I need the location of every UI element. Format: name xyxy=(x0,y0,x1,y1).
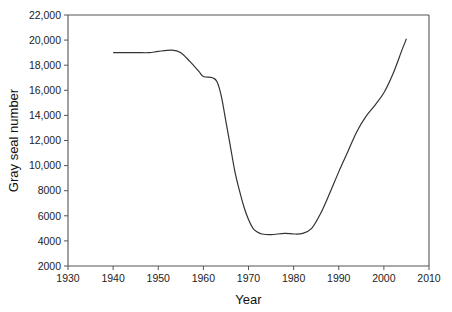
x-tick-label: 2000 xyxy=(372,272,396,284)
line-chart: 200040006000800010,00012,00014,00016,000… xyxy=(0,0,452,312)
y-tick-label: 8000 xyxy=(38,184,62,196)
y-tick-label: 20,000 xyxy=(29,34,61,46)
y-tick-label: 4000 xyxy=(38,235,62,247)
y-tick-label: 2000 xyxy=(38,260,62,272)
y-tick-label: 22,000 xyxy=(29,9,61,21)
x-tick-label: 2010 xyxy=(417,272,441,284)
y-tick-label: 6000 xyxy=(38,210,62,222)
x-axis-title: Year xyxy=(235,292,262,307)
x-tick-label: 1930 xyxy=(56,272,80,284)
x-tick-label: 1950 xyxy=(147,272,171,284)
x-tick-label: 1990 xyxy=(327,272,351,284)
y-tick-label: 14,000 xyxy=(29,109,61,121)
x-tick-label: 1970 xyxy=(237,272,261,284)
y-tick-label: 16,000 xyxy=(29,84,61,96)
y-tick-label: 12,000 xyxy=(29,134,61,146)
y-tick-label: 18,000 xyxy=(29,59,61,71)
x-tick-label: 1980 xyxy=(282,272,306,284)
x-tick-label: 1960 xyxy=(192,272,216,284)
y-axis-title: Gray seal number xyxy=(6,88,21,192)
y-tick-label: 10,000 xyxy=(29,159,61,171)
x-axis: 193019401950196019701980199020002010 xyxy=(56,266,441,284)
y-axis: 200040006000800010,00012,00014,00016,000… xyxy=(29,9,68,272)
x-tick-label: 1940 xyxy=(101,272,125,284)
data-line-gray-seal-number xyxy=(113,39,406,235)
